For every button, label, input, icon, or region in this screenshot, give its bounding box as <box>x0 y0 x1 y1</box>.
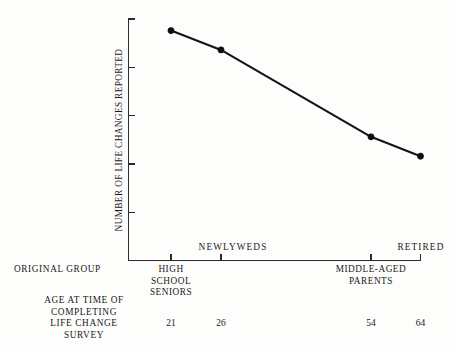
data-point-3 <box>417 153 423 159</box>
age-value-26: 26 <box>208 318 234 329</box>
plot-label-newlyweds: NEWLYWEDS <box>173 242 293 253</box>
group-label-middle-aged-line-2: PARENTS <box>316 276 426 288</box>
group-label-high-school-seniors: HIGH SCHOOL SENIORS <box>126 264 216 299</box>
caption-age-survey-line-3: LIFE CHANGE <box>4 318 164 330</box>
age-value-64: 64 <box>408 318 434 329</box>
group-label-middle-aged-parents: MIDDLE-AGED PARENTS <box>316 264 426 287</box>
plot-label-retired: RETIRED <box>388 242 454 253</box>
data-point-0 <box>168 27 174 33</box>
data-point-1 <box>218 47 224 53</box>
caption-original-group: ORIGINAL GROUP <box>6 264 124 276</box>
group-label-high-school-line-1: HIGH <box>126 264 216 276</box>
data-point-2 <box>368 134 374 140</box>
caption-age-survey: AGE AT TIME OF COMPLETING LIFE CHANGE SU… <box>4 295 164 341</box>
group-label-high-school-line-2: SCHOOL <box>126 276 216 288</box>
series-line <box>171 31 421 157</box>
age-value-54: 54 <box>358 318 384 329</box>
group-label-high-school-line-3: SENIORS <box>126 287 216 299</box>
caption-age-survey-line-2: COMPLETING <box>4 307 164 319</box>
age-value-21: 21 <box>158 318 184 329</box>
group-label-middle-aged-line-1: MIDDLE-AGED <box>316 264 426 276</box>
caption-age-survey-line-4: SURVEY <box>4 330 164 342</box>
line-chart-figure: NUMBER OF LIFE CHANGES REPORTED 25201510… <box>0 0 454 351</box>
